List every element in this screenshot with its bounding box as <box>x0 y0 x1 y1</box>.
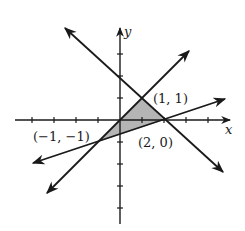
x-axis-label: x <box>225 122 233 137</box>
coordinate-plane: x y (1, 1) (2, 0) (−1, −1) <box>0 0 245 231</box>
label-point-2-0: (2, 0) <box>138 135 173 150</box>
label-point-neg1-neg1: (−1, −1) <box>33 129 90 144</box>
y-axis-label: y <box>123 24 132 39</box>
label-point-1-1: (1, 1) <box>153 91 188 106</box>
